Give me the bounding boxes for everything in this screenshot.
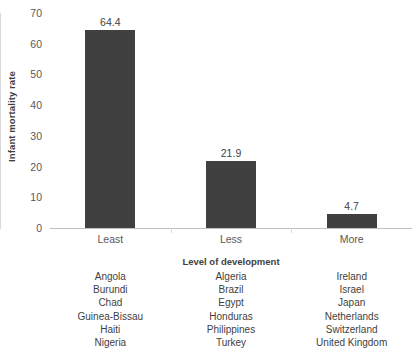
bar[interactable] [327,214,377,228]
country-list-item: Egypt [171,296,292,309]
country-column: AngolaBurundiChadGuinea-BissauHaitiNiger… [50,270,171,349]
country-list-item: Brazil [171,283,292,296]
country-list-item: Algeria [171,270,292,283]
x-axis-tick-label: Least [50,233,171,245]
country-list-item: Guinea-Bissau [50,310,171,323]
plot-area: 64.421.94.7 [50,13,412,228]
country-list-item: United Kingdom [291,336,412,349]
country-list-item: Haiti [50,323,171,336]
country-list-item: Angola [50,270,171,283]
country-column: IrelandIsraelJapanNetherlandsSwitzerland… [291,270,412,349]
y-axis-tick-label: 10 [20,191,46,203]
y-axis-tick-label: 60 [20,38,46,50]
x-axis-line [50,228,412,229]
x-axis-title: Level of development [50,256,412,267]
y-axis-tick-label: 30 [20,130,46,142]
country-list-item: Chad [50,296,171,309]
country-list-item: Burundi [50,283,171,296]
y-axis-tick-labels: 010203040506070 [20,0,46,232]
bar[interactable] [206,161,256,228]
y-axis-tick-label: 70 [20,7,46,19]
y-axis-title-text: Infant mortality rate [6,71,17,162]
country-list-item: Honduras [171,310,292,323]
x-axis-tick-labels: LeastLessMore [50,233,412,249]
country-list-item: Netherlands [291,310,412,323]
country-list-item: Switzerland [291,323,412,336]
bar-value-label: 4.7 [322,200,382,212]
country-lists: AngolaBurundiChadGuinea-BissauHaitiNiger… [50,270,412,349]
y-axis-title: Infant mortality rate [0,0,22,232]
y-axis-tick-label: 20 [20,161,46,173]
y-axis-line [0,13,1,229]
country-list-item: Nigeria [50,336,171,349]
bar-value-label: 64.4 [80,16,140,28]
bar-chart-figure: Infant mortality rate 010203040506070 64… [0,0,416,351]
y-axis-tick-label: 0 [20,222,46,234]
country-list-item: Japan [291,296,412,309]
country-list-item: Turkey [171,336,292,349]
bar[interactable] [85,30,135,228]
bar-value-label: 21.9 [201,147,261,159]
country-list-item: Israel [291,283,412,296]
y-axis-tick-label: 50 [20,68,46,80]
country-list-item: Philippines [171,323,292,336]
country-list-item: Ireland [291,270,412,283]
y-axis-tick-label: 40 [20,99,46,111]
x-axis-tick-label: Less [171,233,292,245]
country-column: AlgeriaBrazilEgyptHondurasPhilippinesTur… [171,270,292,349]
x-axis-tick-label: More [291,233,412,245]
